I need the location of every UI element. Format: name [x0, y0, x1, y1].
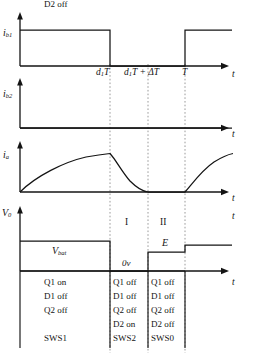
v0-y-arrowhead — [17, 206, 23, 214]
table-row: Q1 on — [44, 278, 66, 287]
table-row: D2 off — [44, 0, 68, 9]
axis-label-ia-sub: a — [6, 153, 9, 160]
table-row: Q2 off — [151, 306, 175, 315]
tick-label-T: T — [182, 68, 187, 78]
v0-t-axis-label: t — [232, 212, 235, 222]
table-row: SWS0 — [151, 334, 174, 343]
tick-label-d1T: d1T — [96, 68, 109, 78]
axis-label-ib1: ib1 — [3, 28, 12, 39]
ia-t-axis-label: t — [232, 194, 235, 204]
table-row: Q1 off — [113, 278, 137, 287]
ia-t-arrowhead — [221, 189, 229, 195]
diagram-canvas — [0, 0, 277, 353]
v0-level-label-zero: 0v — [122, 259, 131, 268]
ib2-y-arrowhead — [17, 78, 23, 86]
ia-waveform — [20, 154, 233, 193]
table-row: Q2 off — [44, 306, 68, 315]
v0-level-label-vbat: Vbat — [52, 246, 66, 257]
ib1-t-arrowhead — [221, 63, 229, 69]
table-row: Q2 off — [113, 306, 137, 315]
ib2-t-axis-label: t — [232, 130, 235, 140]
table-row: D1 off — [113, 292, 137, 301]
trace-ia — [17, 141, 233, 195]
ia-y-arrowhead — [17, 141, 23, 149]
tick-label-d1T-deltaT: d1T + ΔT — [124, 68, 159, 78]
region-label-I: I — [125, 218, 128, 228]
waveform-diagram: ib1 d1T d1T + ΔT T t ib2 t ia t V0 t I I… — [0, 0, 277, 353]
table-row: D1 off — [151, 292, 175, 301]
table-row: SWS2 — [113, 334, 136, 343]
ib1-y-arrowhead — [17, 12, 23, 20]
axis-label-v0-sub: 0 — [8, 211, 11, 218]
region-label-II: II — [160, 218, 166, 228]
table-t-axis-label: t — [232, 278, 235, 288]
v0-level-label-e: E — [162, 238, 168, 248]
tick-d1T-tail: T — [104, 67, 109, 77]
axis-label-ia: ia — [3, 150, 9, 161]
tick-T-main: T — [182, 67, 187, 77]
axis-label-ib1-sub: b1 — [6, 31, 13, 38]
axis-label-ib2-sub: b2 — [6, 92, 13, 99]
ib1-waveform — [20, 30, 232, 66]
axis-label-ib2: ib2 — [3, 89, 12, 100]
table-row: SWS1 — [44, 334, 67, 343]
table-row: D2 off — [151, 320, 175, 329]
table-row: D1 off — [44, 292, 68, 301]
table-row: D2 on — [113, 320, 135, 329]
vbat-sub: bat — [58, 249, 66, 256]
trace-ib2 — [17, 78, 232, 131]
tick-d1TdT-tail: T + ΔT — [132, 67, 159, 77]
v0-t-arrowhead — [221, 268, 229, 274]
ib1-t-axis-label: t — [232, 70, 235, 80]
table-row: Q1 off — [151, 278, 175, 287]
axis-label-v0: V0 — [2, 208, 11, 219]
trace-ib1 — [17, 12, 232, 69]
